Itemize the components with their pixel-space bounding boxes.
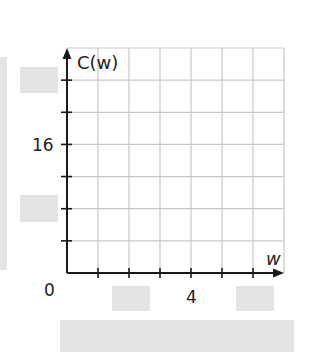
y-axis-label: C(w) [77, 54, 118, 72]
x-axis-arrow-icon [273, 269, 284, 278]
x-axis-label: w [266, 250, 281, 268]
origin-label: 0 [44, 282, 55, 299]
x-tick-label-4: 4 [186, 289, 197, 306]
y-axis-arrow-icon [63, 48, 72, 59]
y-tick-label-16: 16 [32, 137, 54, 154]
